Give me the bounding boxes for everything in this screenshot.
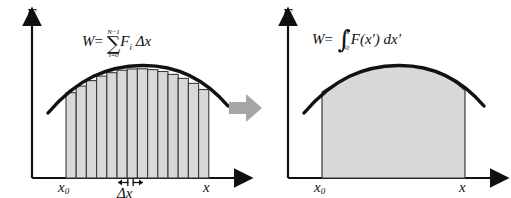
integral-lower-limit: x0 (343, 43, 350, 51)
integral-differential: dx′ (384, 31, 401, 47)
delta-x-label: Δx (117, 186, 132, 198)
x-axis-start-label: x0 (58, 180, 69, 195)
sum-formula: W= N−1 ∑ i=0 Fi Δx (82, 28, 151, 58)
sum-formula-lhs: W (82, 33, 95, 49)
sigma-lower-limit: i=0 (107, 52, 121, 59)
integral-panel: F x0 x W= ∫ x x0 F(x′) dx′ (256, 0, 511, 198)
integral-formula-equals: = (325, 31, 333, 47)
integrand: F(x′) (351, 31, 380, 47)
integral-operator: ∫ x x0 (337, 30, 351, 52)
work-integral-figure: F (0, 0, 511, 198)
sum-term-index: i (129, 42, 132, 52)
sigma-glyph: ∑ (107, 36, 121, 52)
integral-formula-lhs: W (312, 31, 325, 47)
riemann-bars (66, 69, 209, 178)
x-axis-end-label: x (203, 180, 210, 195)
x-axis-end-label: x (459, 180, 466, 195)
integral-formula: W= ∫ x x0 F(x′) dx′ (312, 30, 401, 52)
sigma-operator: N−1 ∑ i=0 (107, 29, 121, 59)
x-axis-start-label: x0 (314, 180, 325, 195)
sum-formula-equals: = (95, 33, 103, 49)
integral-shaded-area (322, 65, 465, 178)
riemann-sum-panel: F (0, 0, 255, 198)
integral-upper-limit: x (346, 28, 350, 36)
sum-differential: Δx (136, 33, 151, 49)
